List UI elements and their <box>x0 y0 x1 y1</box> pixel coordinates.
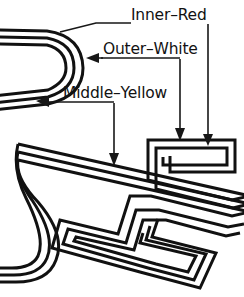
label-inner-red: Inner–Red <box>131 6 207 24</box>
label-outer-white: Outer–White <box>103 40 198 58</box>
layered-path-diagram: Inner–Red Outer–White Middle–Yellow <box>0 0 244 297</box>
figure-root: Inner–Red Outer–White Middle–Yellow <box>0 0 244 297</box>
label-middle-yellow: Middle–Yellow <box>63 84 168 102</box>
